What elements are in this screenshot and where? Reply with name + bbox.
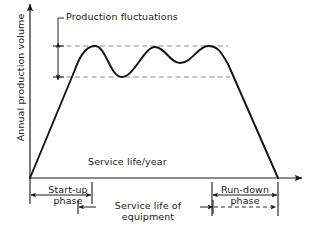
production-fluctuations-leader xyxy=(58,18,64,43)
x-axis-label: Service life/year xyxy=(88,156,167,167)
y-axis-label: Annual production volume xyxy=(15,3,26,153)
service-life-of-equipment-label: Service life of equipment xyxy=(96,200,200,222)
start-up-phase-label: Start-up phase xyxy=(36,184,100,206)
production-fluctuations-label: Production fluctuations xyxy=(66,11,178,22)
production-volume-diagram: Annual production volume Production fluc… xyxy=(0,0,316,231)
run-down-phase-label: Run-down phase xyxy=(212,184,278,206)
